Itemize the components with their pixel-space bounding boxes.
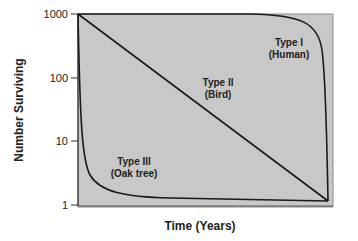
y-axis-title: Number Surviving (12, 58, 26, 161)
svg-text:Type I: Type I (275, 37, 303, 48)
label-type-ii: Type II (Bird) (203, 77, 234, 100)
y-tick-1000: 1000 (44, 8, 68, 20)
y-tick-10: 10 (56, 135, 68, 147)
y-tick-100: 100 (50, 72, 68, 84)
svg-text:Type III: Type III (117, 156, 151, 167)
y-ticks: 1000 100 10 1 (44, 8, 78, 211)
y-tick-1: 1 (62, 199, 68, 211)
label-type-iii: Type III (Oak tree) (111, 156, 158, 179)
svg-text:Type II: Type II (203, 77, 234, 88)
svg-text:(Oak tree): (Oak tree) (111, 168, 158, 179)
svg-text:(Human): (Human) (269, 49, 310, 60)
svg-text:(Bird): (Bird) (205, 89, 232, 100)
x-axis-title: Time (Years) (164, 219, 235, 233)
survivorship-chart: 1000 100 10 1 Type I (Human) Type II (Bi… (0, 0, 358, 241)
